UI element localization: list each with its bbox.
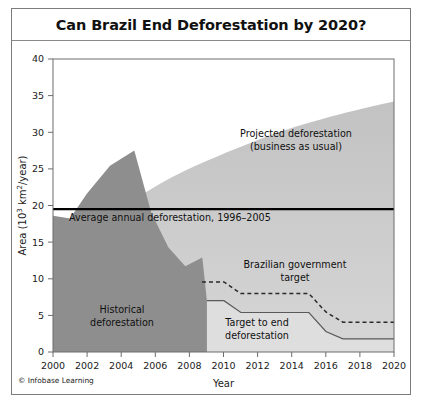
historical-deforestation-label-line2: deforestation (90, 317, 154, 328)
x-tick-label: 2000 (41, 360, 65, 371)
x-tick-group-2006: 2006 (143, 352, 167, 371)
x-tick-label: 2002 (75, 360, 99, 371)
x-tick-label: 2004 (109, 360, 133, 371)
y-tick-label: 40 (32, 53, 44, 64)
historical-deforestation-label-line1: Historical (100, 304, 145, 315)
credit-text: © Infobase Learning (18, 376, 94, 385)
average-line-label: Average annual deforestation, 1996–2005 (69, 212, 271, 223)
y-tick-label: 20 (32, 200, 44, 211)
plot-area-container: 0 5 10 15 20 25 30 35 40 (12, 41, 410, 395)
x-tick-label: 2016 (314, 360, 338, 371)
x-tick-group-2008: 2008 (177, 352, 201, 371)
y-tick-label: 25 (32, 163, 44, 174)
x-tick-group-2018: 2018 (348, 352, 372, 371)
x-tick-label: 2010 (211, 360, 235, 371)
x-tick-group-2004: 2004 (109, 352, 133, 371)
y-tick-group-40: 40 (32, 53, 53, 64)
y-tick-group-20: 20 (32, 200, 53, 211)
x-tick-group-2014: 2014 (280, 352, 304, 371)
y-tick-group-0: 0 (38, 346, 53, 357)
y-tick-label: 30 (32, 127, 44, 138)
x-tick-label: 2014 (280, 360, 304, 371)
x-axis-title: Year (212, 378, 235, 389)
x-tick-group-2010: 2010 (211, 352, 235, 371)
target-to-end-deforestation-label-line2: deforestation (225, 330, 289, 341)
y-axis: 0 5 10 15 20 25 30 35 40 (32, 53, 53, 357)
y-tick-group-5: 5 (38, 310, 53, 321)
x-tick-group-2012: 2012 (246, 352, 270, 371)
x-tick-label: 2008 (177, 360, 201, 371)
y-tick-label: 5 (38, 310, 44, 321)
y-tick-group-25: 25 (32, 163, 53, 174)
y-tick-group-10: 10 (32, 273, 53, 284)
x-tick-label: 2018 (348, 360, 372, 371)
x-tick-label: 2012 (246, 360, 270, 371)
brazilian-government-target-label-line2: target (280, 272, 309, 283)
y-tick-group-15: 15 (32, 237, 53, 248)
y-tick-label: 10 (32, 273, 44, 284)
deforestation-area-chart: 0 5 10 15 20 25 30 35 40 (12, 41, 410, 395)
x-tick-group-2000: 2000 (41, 352, 65, 371)
chart-figure: Can Brazil End Deforestation by 2020? (11, 8, 411, 395)
y-tick-group-35: 35 (32, 90, 53, 101)
x-tick-group-2002: 2002 (75, 352, 99, 371)
x-tick-group-2016: 2016 (314, 352, 338, 371)
x-tick-label: 2020 (382, 360, 406, 371)
page-title: Can Brazil End Deforestation by 2020? (56, 17, 367, 33)
target-to-end-deforestation-label-line1: Target to end (224, 317, 288, 328)
x-tick-group-2020: 2020 (382, 352, 406, 371)
projected-deforestation-label-line1: Projected deforestation (240, 128, 352, 139)
y-tick-group-30: 30 (32, 127, 53, 138)
projected-deforestation-label-line2: (business as usual) (250, 141, 342, 152)
y-tick-label: 0 (38, 346, 44, 357)
x-tick-label: 2006 (143, 360, 167, 371)
y-axis-title: Area (103 km2/year) (16, 155, 28, 255)
y-tick-label: 15 (32, 237, 44, 248)
y-tick-label: 35 (32, 90, 44, 101)
x-axis: 2000 2002 2004 2006 2008 2010 2012 2014 … (41, 352, 406, 371)
brazilian-government-target-label-line1: Brazilian government (244, 259, 347, 270)
chart-title-bar: Can Brazil End Deforestation by 2020? (12, 9, 410, 41)
